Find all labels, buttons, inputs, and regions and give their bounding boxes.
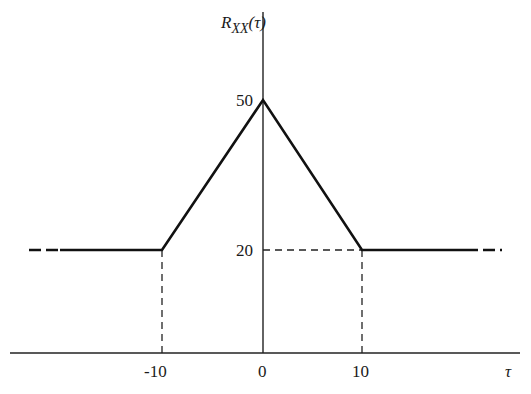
x-tick-0: 0 (258, 362, 267, 381)
x-tick-minus10: -10 (144, 362, 167, 381)
y-tick-50: 50 (236, 91, 253, 110)
x-tick-10: 10 (352, 362, 369, 381)
autocorrelation-chart: RXX(τ) 50 20 -10 0 10 τ (0, 0, 531, 394)
y-tick-20: 20 (236, 241, 253, 260)
y-axis-label: RXX(τ) (220, 13, 266, 36)
x-axis-label: τ (505, 362, 512, 381)
